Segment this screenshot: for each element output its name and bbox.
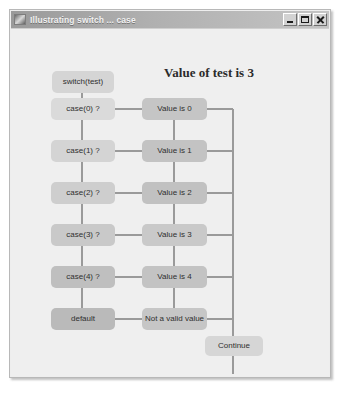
value-node-default[interactable]: Not a valid value <box>142 308 207 330</box>
continue-button[interactable]: Continue <box>205 336 263 356</box>
case-node-1[interactable]: case(1) ? <box>51 140 115 162</box>
minimize-icon <box>287 21 293 23</box>
minimize-button[interactable] <box>283 13 297 26</box>
value-node-3[interactable]: Value is 3 <box>142 224 207 246</box>
switch-test-node[interactable]: switch(test) <box>52 71 114 93</box>
window-controls <box>283 13 327 26</box>
value-node-2[interactable]: Value is 2 <box>142 182 207 204</box>
maximize-button[interactable] <box>298 13 312 26</box>
value-node-1[interactable]: Value is 1 <box>142 140 207 162</box>
value-node-4[interactable]: Value is 4 <box>142 266 207 288</box>
close-button[interactable] <box>313 13 327 26</box>
case-node-4[interactable]: case(4) ? <box>51 266 115 288</box>
case-node-2[interactable]: case(2) ? <box>51 182 115 204</box>
flowchart-canvas: Value of test is 3 switch(test) case(0) … <box>11 29 329 376</box>
application-window: Illustrating switch ... case <box>9 9 331 378</box>
maximize-icon <box>301 16 309 23</box>
window-title: Illustrating switch ... case <box>30 15 136 25</box>
case-node-0[interactable]: case(0) ? <box>51 98 115 120</box>
page-title: Value of test is 3 <box>129 65 289 81</box>
client-area: Value of test is 3 switch(test) case(0) … <box>11 28 329 376</box>
app-icon <box>14 14 26 25</box>
case-node-default[interactable]: default <box>51 308 115 330</box>
case-node-3[interactable]: case(3) ? <box>51 224 115 246</box>
title-bar[interactable]: Illustrating switch ... case <box>11 11 329 28</box>
value-node-0[interactable]: Value is 0 <box>142 98 207 120</box>
